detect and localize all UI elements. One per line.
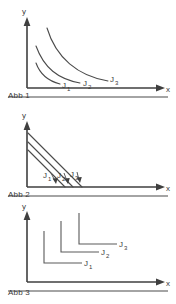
x-axis-label: x [166,279,170,288]
svg-text:J: J [70,170,74,179]
diagram-abb-2: y x J 1 J 2 J 3 [0,102,176,202]
x-axis-label: x [166,85,170,94]
isoquant-step-j2 [61,221,99,252]
svg-text:J: J [110,75,114,84]
svg-text:2: 2 [88,84,92,90]
svg-text:3: 3 [124,245,128,251]
y-axis-label: y [22,202,26,211]
curve-label-j1: J 1 [84,259,93,270]
svg-text:1: 1 [89,264,93,270]
svg-text:1: 1 [67,86,71,92]
svg-text:J: J [119,240,123,249]
svg-text:J: J [84,259,88,268]
panel-caption-abb-2: Abb 2 [8,190,30,199]
curve-label-j3: J 3 [119,240,128,251]
figure-panel-abb-2: y x J 1 J 2 J 3 [0,102,176,202]
isoquant-step-j1 [44,231,82,263]
x-axis-arrowhead [156,184,165,191]
y-axis-arrowhead [24,17,31,26]
curve-label-j1: J 1 [62,81,71,92]
svg-text:1: 1 [48,176,52,182]
svg-text:3: 3 [115,80,119,86]
diagram-abb-1: y x J 1 J 2 J 3 [0,0,176,104]
svg-text:J: J [62,81,66,90]
svg-text:J: J [43,171,47,180]
svg-text:J: J [83,79,87,88]
curve-label-j3: J 3 [110,75,119,86]
panel-caption-abb-3: Abb 3 [8,288,30,297]
svg-text:J: J [101,248,105,257]
figure-panel-abb-3: y x J 1 J 2 J 3 Abb 3 [0,200,176,304]
x-axis-arrowhead [156,279,165,286]
isoquant-curve-j3 [47,28,108,81]
x-axis-arrowhead [156,85,165,92]
isoquant-step-j3 [79,213,117,244]
x-axis-label: x [166,184,170,193]
y-axis-arrowhead [24,121,31,130]
figure-stack: y x J 1 J 2 J 3 [0,0,176,304]
y-axis-label: y [22,111,26,120]
svg-text:J: J [57,171,61,180]
figure-panel-abb-1: y x J 1 J 2 J 3 [0,0,176,104]
y-axis-label: y [22,7,26,16]
svg-text:2: 2 [106,253,110,259]
y-axis-arrowhead [24,211,31,220]
curve-label-j2: J 2 [101,248,110,259]
isoquant-line-j1 [28,150,65,187]
panel-caption-abb-1: Abb 1 [8,91,30,100]
